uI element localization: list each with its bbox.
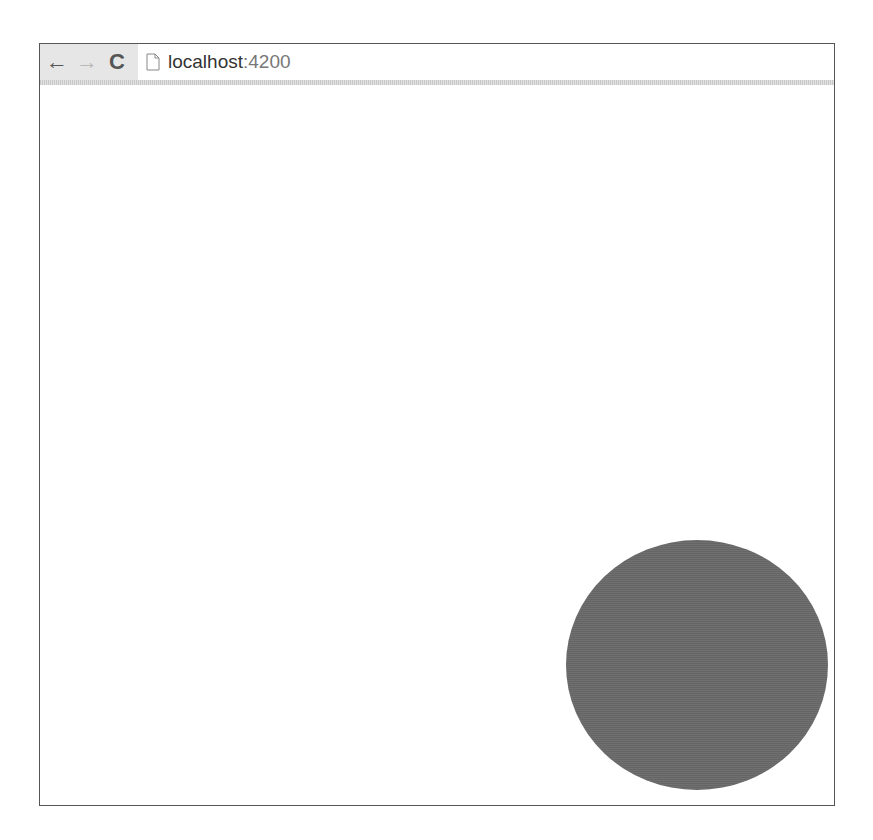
reload-icon: C bbox=[109, 49, 125, 75]
url-port: :4200 bbox=[243, 51, 291, 72]
gray-circle bbox=[566, 540, 828, 790]
page-viewport bbox=[40, 85, 834, 805]
nav-buttons: ← → C bbox=[40, 44, 138, 80]
arrow-left-icon: ← bbox=[46, 49, 68, 75]
arrow-right-icon: → bbox=[76, 49, 98, 75]
browser-toolbar: ← → C localhost:4200 bbox=[40, 44, 834, 80]
back-button[interactable]: ← bbox=[42, 48, 72, 76]
url-host: localhost bbox=[168, 51, 243, 72]
url-text[interactable]: localhost:4200 bbox=[168, 51, 291, 73]
address-bar[interactable]: localhost:4200 bbox=[138, 44, 834, 80]
browser-window: ← → C localhost:4200 bbox=[39, 43, 835, 806]
page-icon bbox=[146, 53, 160, 71]
reload-button[interactable]: C bbox=[102, 48, 132, 76]
forward-button[interactable]: → bbox=[72, 48, 102, 76]
